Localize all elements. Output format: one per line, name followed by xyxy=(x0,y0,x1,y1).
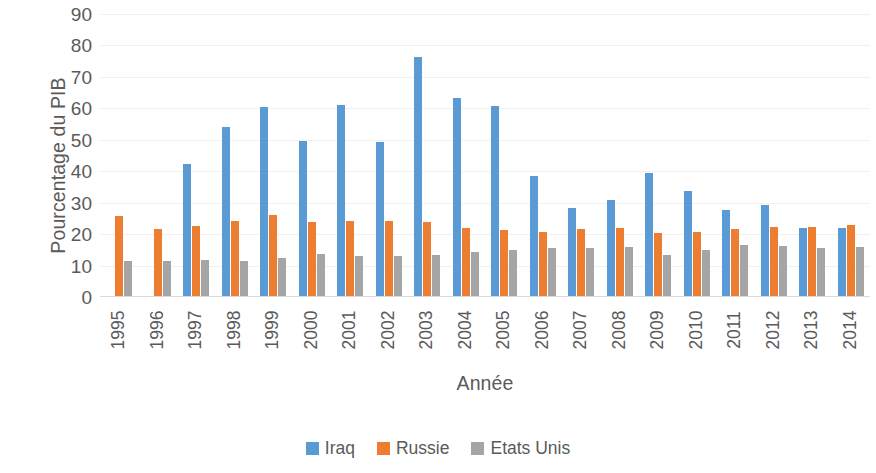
bar-iraq[interactable] xyxy=(453,98,461,297)
x-tick-label: 1995 xyxy=(111,311,129,350)
bar-group xyxy=(524,14,563,297)
x-tick-cell: 2003 xyxy=(408,300,447,362)
bar-etats-unis[interactable] xyxy=(201,260,209,297)
bar-etats-unis[interactable] xyxy=(663,255,671,297)
bar-russie[interactable] xyxy=(269,215,277,297)
bar-etats-unis[interactable] xyxy=(278,258,286,297)
x-tick-cell: 1996 xyxy=(139,300,178,362)
bar-etats-unis[interactable] xyxy=(432,255,440,297)
legend-label: Iraq xyxy=(325,438,355,459)
x-tick-cell: 1999 xyxy=(254,300,293,362)
legend-label: Russie xyxy=(396,438,450,459)
bar-etats-unis[interactable] xyxy=(856,247,864,297)
x-tick-label: 1997 xyxy=(188,311,206,350)
bar-etats-unis[interactable] xyxy=(240,261,248,297)
x-tick-cell: 2007 xyxy=(562,300,601,362)
bar-iraq[interactable] xyxy=(376,142,384,297)
bar-russie[interactable] xyxy=(423,222,431,297)
bar-iraq[interactable] xyxy=(568,208,576,297)
bar-russie[interactable] xyxy=(500,230,508,297)
bar-russie[interactable] xyxy=(154,229,162,297)
bar-etats-unis[interactable] xyxy=(163,261,171,297)
bar-iraq[interactable] xyxy=(414,57,422,297)
bar-chart: Pourcentage du PIB 0102030405060708090 1… xyxy=(0,0,876,473)
bar-iraq[interactable] xyxy=(838,228,846,297)
x-tick-label: 2013 xyxy=(804,311,822,350)
bar-group xyxy=(716,14,755,297)
x-tick-cell: 1998 xyxy=(216,300,255,362)
x-tick-cell: 2009 xyxy=(639,300,678,362)
bar-group xyxy=(293,14,332,297)
bar-iraq[interactable] xyxy=(684,191,692,297)
bar-russie[interactable] xyxy=(115,216,123,297)
bar-iraq[interactable] xyxy=(299,141,307,297)
bar-etats-unis[interactable] xyxy=(124,261,132,297)
x-tick-label: 2012 xyxy=(765,311,783,350)
legend-swatch-icon xyxy=(471,442,484,455)
x-tick-cell: 2000 xyxy=(293,300,332,362)
legend-item-iraq[interactable]: Iraq xyxy=(306,438,355,459)
bar-groups xyxy=(100,14,870,297)
bar-etats-unis[interactable] xyxy=(702,250,710,297)
bar-iraq[interactable] xyxy=(722,210,730,297)
bar-iraq[interactable] xyxy=(260,107,268,297)
x-tick-label: 2005 xyxy=(496,311,514,350)
bar-etats-unis[interactable] xyxy=(586,248,594,297)
bar-russie[interactable] xyxy=(385,221,393,297)
x-tick-cell: 2004 xyxy=(447,300,486,362)
bar-etats-unis[interactable] xyxy=(740,245,748,298)
bar-russie[interactable] xyxy=(808,227,816,297)
bar-etats-unis[interactable] xyxy=(625,247,633,297)
bar-iraq[interactable] xyxy=(645,173,653,297)
x-tick-label: 2003 xyxy=(419,311,437,350)
legend-item-russie[interactable]: Russie xyxy=(377,438,450,459)
bar-etats-unis[interactable] xyxy=(394,256,402,297)
x-tick-label: 2007 xyxy=(573,311,591,350)
bar-russie[interactable] xyxy=(616,228,624,297)
bar-russie[interactable] xyxy=(693,232,701,297)
x-tick-cell: 2005 xyxy=(485,300,524,362)
bar-etats-unis[interactable] xyxy=(317,254,325,297)
y-tick-label: 50 xyxy=(71,130,92,149)
bar-iraq[interactable] xyxy=(222,127,230,297)
bar-etats-unis[interactable] xyxy=(548,248,556,297)
bar-russie[interactable] xyxy=(654,233,662,297)
bar-russie[interactable] xyxy=(346,221,354,297)
bar-iraq[interactable] xyxy=(337,105,345,297)
bar-iraq[interactable] xyxy=(799,228,807,297)
bar-group xyxy=(447,14,486,297)
bar-iraq[interactable] xyxy=(491,106,499,297)
bar-etats-unis[interactable] xyxy=(817,248,825,297)
bar-iraq[interactable] xyxy=(607,200,615,297)
bar-group xyxy=(139,14,178,297)
bar-russie[interactable] xyxy=(231,221,239,297)
y-tick-label: 0 xyxy=(81,288,92,307)
bar-iraq[interactable] xyxy=(530,176,538,297)
bar-group xyxy=(601,14,640,297)
bar-russie[interactable] xyxy=(577,229,585,297)
bar-russie[interactable] xyxy=(847,225,855,297)
legend-swatch-icon xyxy=(377,442,390,455)
x-tick-cell: 2006 xyxy=(524,300,563,362)
y-tick-label: 60 xyxy=(71,99,92,118)
bar-russie[interactable] xyxy=(539,232,547,297)
x-tick-cell: 2010 xyxy=(678,300,717,362)
bar-group xyxy=(408,14,447,297)
bar-etats-unis[interactable] xyxy=(509,250,517,297)
bar-russie[interactable] xyxy=(462,228,470,297)
y-axis-tick-labels: 0102030405060708090 xyxy=(52,0,92,310)
bar-russie[interactable] xyxy=(192,226,200,297)
bar-group xyxy=(678,14,717,297)
bar-etats-unis[interactable] xyxy=(471,252,479,297)
bar-etats-unis[interactable] xyxy=(355,256,363,297)
y-tick-label: 80 xyxy=(71,36,92,55)
bar-russie[interactable] xyxy=(308,222,316,297)
bar-group xyxy=(485,14,524,297)
bar-russie[interactable] xyxy=(770,227,778,297)
legend-item-etats-unis[interactable]: Etats Unis xyxy=(471,438,570,459)
bar-etats-unis[interactable] xyxy=(779,246,787,297)
x-tick-cell: 2002 xyxy=(370,300,409,362)
bar-russie[interactable] xyxy=(731,229,739,297)
bar-iraq[interactable] xyxy=(183,164,191,297)
bar-iraq[interactable] xyxy=(761,205,769,297)
